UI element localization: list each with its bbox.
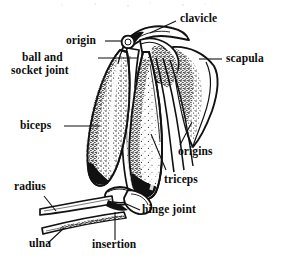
label-origin: origin [66,34,96,47]
label-biceps: biceps [20,119,51,132]
label-triceps: triceps [164,173,198,186]
label-radius: radius [14,180,46,193]
label-insertion: insertion [92,238,136,251]
label-hinge-joint: hinge joint [142,203,196,216]
anatomy-figure: clavicle origin ball and socket joint sc… [0,0,283,271]
label-origins: origins [178,145,213,158]
label-clavicle: clavicle [180,12,217,25]
label-ulna: ulna [29,237,51,250]
label-ball-and-socket-joint-line2: socket joint [11,64,69,77]
label-scapula: scapula [226,52,264,65]
arm-anatomy-drawing [0,0,283,271]
label-ball-and-socket-joint-line1: ball and [22,51,63,64]
